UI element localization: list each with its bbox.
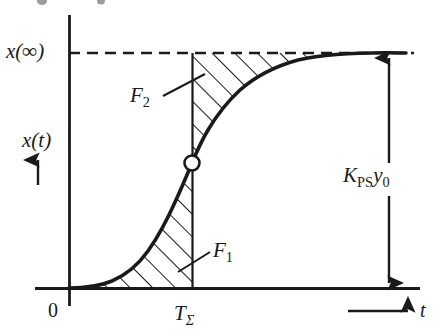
area-f1-label-base: F — [213, 238, 226, 262]
x-axis-label: t — [420, 300, 426, 320]
y-axis-label: x(t) — [22, 130, 51, 151]
gain-label-k: K — [343, 163, 357, 187]
gain-dimension-label: KPSy0 — [343, 165, 390, 189]
area-f2-label: F2 — [130, 85, 150, 109]
y-asymptote-label: x(∞) — [6, 41, 44, 62]
area-f2-label-subscript: 2 — [143, 94, 150, 110]
gain-label-zero-subscript: 0 — [383, 174, 390, 190]
gain-label-ps-subscript: PS — [357, 174, 373, 190]
origin-label: 0 — [48, 300, 58, 320]
area-f1-label: F1 — [213, 240, 233, 264]
t-sigma-label-subscript: Σ — [186, 312, 194, 328]
t-sigma-label: TΣ — [174, 303, 194, 327]
step-response-figure: x(∞) x(t) F2 F1 KPSy0 TΣ 0 t — [0, 0, 440, 336]
area-f1-label-subscript: 1 — [226, 249, 233, 265]
gain-label-y: y — [373, 163, 382, 187]
cropped-text-remnant — [37, 0, 105, 5]
t-sigma-label-base: T — [174, 301, 186, 325]
inflection-point-marker — [185, 156, 200, 171]
area-f2-label-base: F — [130, 83, 143, 107]
